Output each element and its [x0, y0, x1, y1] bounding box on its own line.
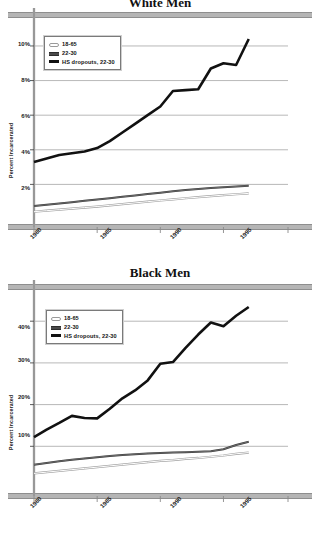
legend-item: 18-65 [51, 314, 117, 322]
legend-item: HS dropouts, 22-30 [49, 58, 115, 66]
legend-label: 22-30 [64, 324, 79, 330]
chart-black-men: Black Men Percent Incarcerated 40% 30% 2… [0, 262, 320, 534]
legend-label: HS dropouts, 22-30 [62, 59, 115, 65]
legend-item: 18-65 [49, 40, 115, 48]
legend-item: 22-30 [51, 323, 117, 331]
legend-swatch-line-icon [51, 315, 61, 321]
legend-label: 22-30 [62, 50, 77, 56]
legend-label: HS dropouts, 22-30 [64, 333, 117, 339]
y-axis-label: Percent Incarcerated [8, 395, 14, 450]
legend-item: 22-30 [49, 49, 115, 57]
legend-item: HS dropouts, 22-30 [51, 332, 117, 340]
legend-label: 18-65 [62, 41, 77, 47]
legend-swatch-line-icon [49, 59, 59, 65]
y-tick-label: 40% [10, 324, 30, 330]
legend-swatch-line-icon [49, 41, 59, 47]
plot-area-black-men [0, 262, 320, 534]
y-tick-label: 30% [10, 357, 30, 363]
y-tick-label: 20% [10, 394, 30, 400]
chart-white-men: White Men Percent Incarcerated 10% 8% 6%… [0, 0, 320, 262]
y-tick-label: 2% [10, 185, 30, 191]
legend-swatch-line-icon [51, 333, 61, 339]
y-tick-label: 10% [10, 432, 30, 438]
y-tick-label: 6% [10, 113, 30, 119]
legend-swatch-line-icon [51, 324, 61, 330]
legend: 18-65 22-30 HS dropouts, 22-30 [44, 36, 121, 70]
y-tick-label: 4% [10, 149, 30, 155]
legend-label: 18-65 [64, 315, 79, 321]
y-tick-label: 8% [10, 77, 30, 83]
legend: 18-65 22-30 HS dropouts, 22-30 [46, 310, 123, 344]
legend-swatch-line-icon [49, 50, 59, 56]
y-tick-label: 10% [10, 41, 30, 47]
